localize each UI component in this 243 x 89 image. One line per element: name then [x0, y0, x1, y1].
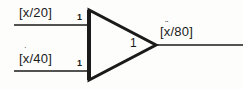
input-label-bottom-derivative-dots: ˙ [24, 47, 28, 56]
input-label-bottom: [˙x/40] [19, 52, 52, 65]
input-label-top-bracket-close: ] [48, 5, 52, 20]
input-label-bottom-bracket-close: ] [48, 51, 52, 66]
output-label-variable-stack: ¨x [164, 25, 171, 38]
amplifier-gain-label: 1 [130, 37, 137, 49]
input-label-top: [x/20] [19, 6, 52, 19]
amplifier-triangle [89, 10, 156, 80]
output-label-bracket-close: ] [189, 24, 193, 39]
input-label-top-variable: x [23, 5, 30, 20]
input-label-bottom-variable-stack: ˙x [23, 52, 30, 65]
input-label-top-divisor: /20 [30, 5, 49, 20]
output-label-divisor: /80 [171, 24, 190, 39]
input-gain-top: 1 [77, 13, 82, 22]
output-label: [¨x/80] [160, 25, 193, 38]
input-label-bottom-divisor: /40 [30, 51, 49, 66]
input-label-top-variable-stack: x [23, 6, 30, 19]
input-gain-bottom: 1 [77, 59, 82, 68]
output-label-derivative-dots: ¨ [165, 20, 169, 29]
block-diagram-canvas: [x/20] [˙x/40] [¨x/80] 1 1 1 [0, 0, 243, 89]
